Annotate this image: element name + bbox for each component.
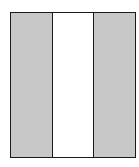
middle-white-panel [53, 13, 94, 157]
right-gray-panel [94, 13, 135, 157]
triband-frame [10, 12, 136, 158]
left-gray-panel [11, 13, 53, 157]
